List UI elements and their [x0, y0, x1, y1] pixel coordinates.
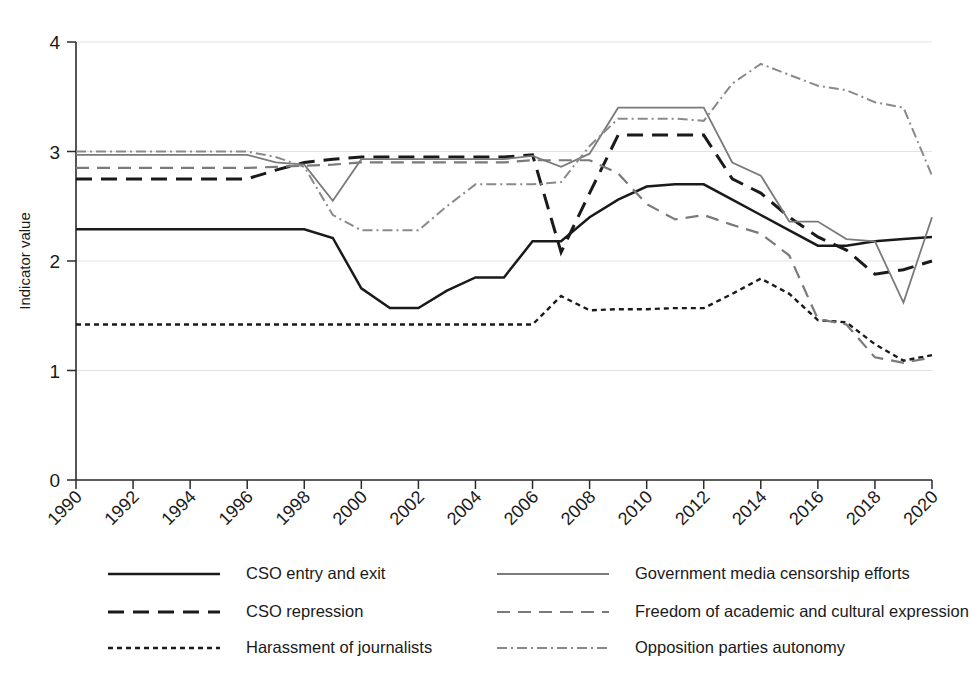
x-tick-label-2016: 2016 — [785, 487, 827, 529]
x-tick-label-2000: 2000 — [329, 487, 371, 529]
x-tick-label-2002: 2002 — [386, 487, 428, 529]
x-tick-label-2010: 2010 — [614, 487, 656, 529]
legend-label-government-media-censorship-efforts: Government media censorship efforts — [635, 564, 910, 582]
y-tick-label-0: 0 — [49, 470, 60, 491]
y-axis-ticks: 01234 — [49, 32, 76, 491]
x-tick-label-1996: 1996 — [215, 487, 257, 529]
x-tick-label-2014: 2014 — [728, 487, 770, 529]
x-tick-label-2006: 2006 — [500, 487, 542, 529]
x-tick-label-2020: 2020 — [899, 487, 941, 529]
y-tick-label-3: 3 — [49, 142, 60, 163]
legend-label-cso-entry-and-exit: CSO entry and exit — [246, 564, 386, 582]
legend-label-opposition-parties-autonomy: Opposition parties autonomy — [635, 638, 846, 656]
x-tick-label-1998: 1998 — [272, 487, 314, 529]
legend-label-cso-repression: CSO repression — [246, 602, 363, 620]
x-tick-label-1994: 1994 — [157, 487, 199, 529]
series-line-harassment-of-journalists — [76, 279, 932, 361]
x-tick-label-2018: 2018 — [842, 487, 884, 529]
legend-label-freedom-of-academic-and-cultural-expression: Freedom of academic and cultural express… — [635, 602, 969, 620]
y-axis-label-text: Indicator value — [16, 212, 33, 310]
x-tick-label-2012: 2012 — [671, 487, 713, 529]
grid-lines — [76, 42, 932, 480]
x-tick-label-2008: 2008 — [557, 487, 599, 529]
chart-container: Indicator value 01234 199019921994199619… — [0, 0, 972, 675]
line-chart: Indicator value 01234 199019921994199619… — [0, 0, 972, 675]
y-axis-title: Indicator value — [16, 212, 33, 310]
y-tick-label-4: 4 — [49, 32, 60, 53]
legend-label-harassment-of-journalists: Harassment of journalists — [246, 638, 432, 656]
y-tick-label-1: 1 — [49, 361, 60, 382]
x-tick-label-1992: 1992 — [100, 487, 142, 529]
series-line-opposition-parties-autonomy — [76, 64, 932, 230]
series-line-freedom-of-academic-and-cultural-expression — [76, 160, 932, 363]
x-axis-ticks: 1990199219941996199820002002200420062008… — [43, 480, 941, 529]
x-tick-label-1990: 1990 — [43, 487, 85, 529]
series-line-government-media-censorship-efforts — [76, 108, 932, 303]
chart-series — [76, 64, 932, 363]
series-line-cso-repression — [76, 135, 932, 274]
y-tick-label-2: 2 — [49, 251, 60, 272]
x-tick-label-2004: 2004 — [443, 487, 485, 529]
chart-legend: CSO entry and exitGovernment media censo… — [108, 564, 969, 656]
